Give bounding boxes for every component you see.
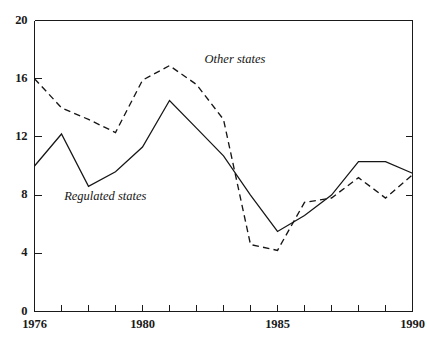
series-label: Regulated states: [64, 189, 146, 204]
x-tick-label: 1990: [391, 317, 427, 332]
x-tick-label: 1976: [13, 317, 57, 332]
y-tick-label: 20: [0, 13, 28, 28]
y-tick-label: 4: [0, 245, 28, 260]
series-line-regulated-states: [35, 101, 413, 232]
y-axis-ticks: [35, 79, 42, 254]
series-line-other-states: [35, 66, 413, 251]
x-tick-label: 1980: [121, 317, 165, 332]
y-tick-label: 12: [0, 129, 28, 144]
x-tick-label: 1985: [256, 317, 300, 332]
series-label: Other states: [205, 52, 266, 67]
line-chart: 048121620 1976198019851990 Other statesR…: [0, 0, 427, 339]
y-tick-label: 8: [0, 187, 28, 202]
y-tick-label: 16: [0, 71, 28, 86]
x-axis-ticks: [62, 305, 386, 312]
right-axis-ticks: [406, 137, 413, 195]
